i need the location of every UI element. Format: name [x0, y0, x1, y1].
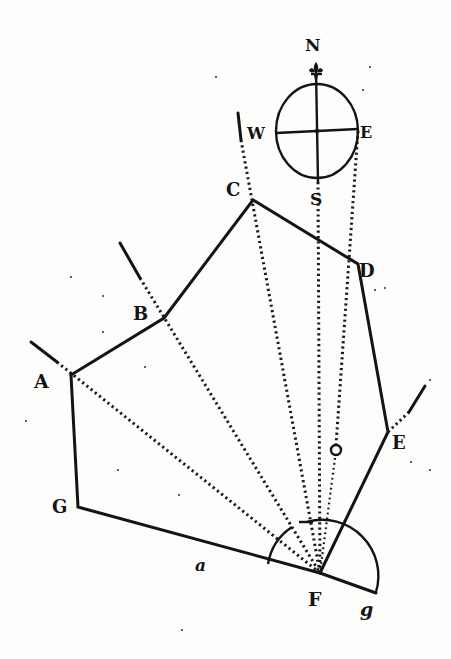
compass-center	[315, 129, 319, 133]
compass-north-south-axis	[316, 70, 318, 182]
label-g: g	[360, 598, 373, 620]
compass-label-west: W	[246, 124, 266, 143]
sight-line-E-extension	[388, 412, 409, 432]
label-D: D	[359, 260, 375, 281]
label-F: F	[308, 588, 322, 610]
label-B: B	[133, 303, 148, 324]
label-C: C	[226, 179, 240, 200]
compass-label-east: E	[360, 123, 372, 142]
compass-label-south: S	[310, 189, 322, 209]
point-o-marker	[331, 445, 341, 455]
label-E: E	[392, 432, 406, 453]
label-G: G	[52, 496, 67, 517]
label-A: A	[33, 370, 49, 392]
label-a: a	[195, 555, 206, 575]
sight-line-A-F	[57, 362, 320, 573]
baseline-F-g	[320, 573, 376, 593]
fleur-de-lis-icon	[309, 62, 323, 80]
compass-label-north: N	[305, 35, 321, 55]
sight-line-E-o	[336, 131, 358, 445]
sight-line-B-F	[140, 278, 320, 573]
surveying-diagram: N W E S A B C D E F	[0, 0, 451, 659]
sight-line-C-F	[241, 140, 320, 573]
compass-rose: N W E S	[246, 35, 372, 209]
protractor-arc	[268, 520, 378, 592]
